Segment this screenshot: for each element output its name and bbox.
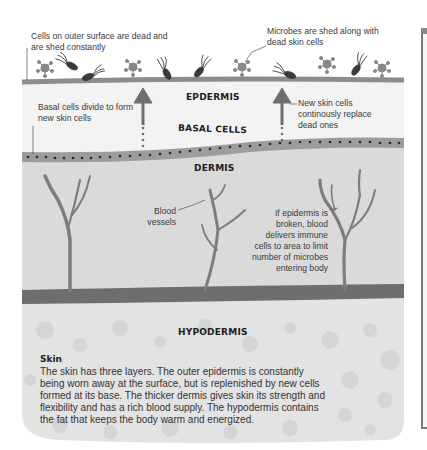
- microbes-annotation: Microbes are shed along with dead skin c…: [267, 26, 387, 48]
- hypodermis-label: HYPODERMIS: [178, 327, 248, 337]
- immune-annotation: If epidermis is broken, blood delivers i…: [250, 208, 328, 274]
- basal-divide-annotation: Basal cells divide to form new skin cell…: [38, 102, 138, 124]
- new-cells-annotation: New skin cells continously replace dead …: [298, 98, 388, 131]
- side-panel-edge: [421, 28, 427, 429]
- caption-body: The skin has three layers. The outer epi…: [40, 366, 325, 426]
- epidermis-label: EPDERMIS: [186, 92, 240, 102]
- caption-heading: Skin: [40, 354, 62, 364]
- dermis-label: DERMIS: [194, 163, 235, 173]
- blood-vessels-annotation: Blood vessels: [130, 206, 176, 228]
- dead-cells-annotation: Cells on outer surface are dead and are …: [31, 31, 181, 53]
